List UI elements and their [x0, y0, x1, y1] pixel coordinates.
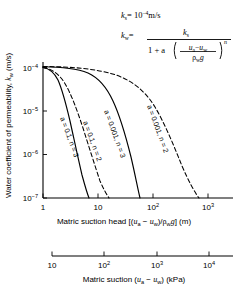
- x-tick-label-primary: 10: [94, 203, 103, 212]
- x-tick-label-primary: 102: [147, 202, 159, 212]
- svg-text:ks= 10−4m/s: ks= 10−4m/s: [121, 10, 161, 21]
- svg-text:ks: ks: [183, 27, 189, 38]
- eq-equals: =: [129, 30, 134, 40]
- y-axis-tick-labels: 10−4 10−5 10−6 10−7: [23, 63, 38, 203]
- equation-right-paren: [220, 42, 222, 59]
- y-tick-label: 10−6: [23, 149, 38, 159]
- x-tick-label-secondary: 103: [151, 260, 163, 270]
- x-axis-label-prefix: Matric suction head [(: [57, 217, 134, 226]
- y-axis-label-main: Water coefficient of permeability,: [4, 81, 13, 198]
- y-tick-label: 10−5: [23, 106, 38, 116]
- svg-text:ua−uw: ua−uw: [189, 43, 208, 53]
- x-axis-label-secondary: Matric suction (ua − uw) (kPa): [83, 275, 186, 285]
- ks-equals: = 10: [127, 10, 142, 20]
- annotation-equation: kw= ks 1 + a ua−uw ρwg n: [121, 27, 231, 63]
- y-tick-label: 10−7: [23, 193, 38, 203]
- chart-svg: ks= 10−4m/s kw= ks 1 + a ua−uw ρwg: [0, 0, 245, 299]
- x-axis-secondary-tick-labels: 10 102 103 104: [48, 260, 215, 270]
- svg-text:kw=: kw=: [121, 30, 134, 41]
- eq-numerator-subscript: s: [187, 32, 189, 38]
- y-axis-label: Water coefficient of permeability, kw (m…: [4, 52, 14, 198]
- x-tick-label-primary: 103: [202, 202, 214, 212]
- y-axis-label-units: (m/s): [4, 52, 13, 73]
- curve-label-a0.1-n2: a = 0.1, n = 2: [81, 120, 104, 163]
- ks-units: m/s: [148, 10, 160, 20]
- x-axis-primary-tick-labels: 1 10 102 103: [41, 202, 214, 212]
- curve-label-a0.1-n3: a = 0.1, n = 3: [58, 116, 81, 159]
- y-tick-label: 10−4: [23, 63, 38, 73]
- annotation-ks-value: ks= 10−4m/s: [121, 10, 161, 21]
- x-axis-label-primary: Matric suction head [(ua − uw)/ρwg] (m): [57, 217, 191, 227]
- x-tick-label-secondary: 104: [203, 260, 215, 270]
- eq-denom-prefix: 1 + a: [148, 45, 165, 55]
- curve-label-group: a = 0.1, n = 3 a = 0.1, n = 2 a = 0.001,…: [58, 104, 171, 163]
- curve-a0.1-n2: [43, 68, 109, 199]
- figure-container: ks= 10−4m/s kw= ks 1 + a ua−uw ρwg: [0, 0, 245, 299]
- x-tick-label-secondary: 10: [48, 261, 57, 270]
- svg-text:ρwg: ρwg: [192, 53, 204, 63]
- curve-label-a0.001-n3: a = 0.001, n = 3: [102, 109, 128, 159]
- equation-left-paren: [174, 42, 176, 59]
- x-tick-label-primary: 1: [41, 203, 46, 212]
- x-tick-label-secondary: 102: [98, 260, 110, 270]
- svg-text:1 + a: 1 + a: [148, 45, 165, 55]
- eq-exponent-n: n: [224, 39, 227, 45]
- eq-inner-den-g: g: [200, 53, 204, 62]
- x-axis-secondary: [52, 252, 233, 257]
